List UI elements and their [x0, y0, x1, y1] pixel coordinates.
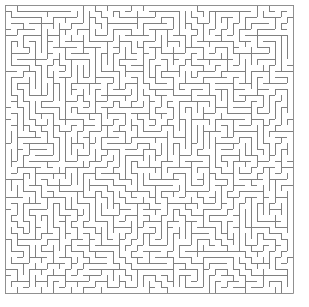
maze-canvas	[0, 0, 309, 307]
maze-page	[0, 0, 309, 307]
